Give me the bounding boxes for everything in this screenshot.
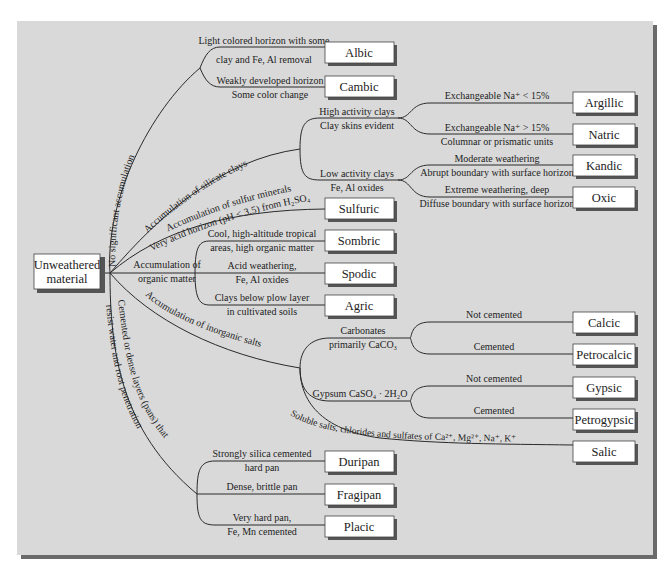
svg-text:Salic: Salic	[592, 445, 617, 459]
label-low-activity-2: Fe, Al oxides	[330, 182, 383, 193]
label-sombric-1: Cool, high-altitude tropical	[208, 228, 317, 239]
horizon-box-gypsic: Gypsic	[573, 377, 638, 401]
svg-text:Calcic: Calcic	[588, 316, 620, 330]
svg-text:Kandic: Kandic	[586, 159, 623, 173]
label-natric-2: Columnar or prismatic units	[441, 136, 554, 147]
svg-text:Fragipan: Fragipan	[337, 488, 382, 502]
soil-horizon-diagram: No significant accumulation Accumulation…	[0, 0, 671, 576]
horizon-box-argillic: Argillic	[573, 92, 638, 116]
svg-text:Argillic: Argillic	[585, 96, 624, 110]
label-carbonates-1: Carbonates	[341, 325, 386, 336]
label-low-activity-1: Low activity clays	[320, 168, 394, 179]
horizon-box-placic: Placic	[325, 516, 397, 540]
label-petrogypsic-1: Cemented	[474, 405, 515, 416]
label-argillic-1: Exchangeable Na⁺ < 15%	[445, 90, 550, 101]
svg-text:Sulfuric: Sulfuric	[339, 202, 380, 216]
root-label-2: material	[47, 272, 88, 286]
root-box-unweathered-material: Unweathered material	[34, 254, 105, 293]
svg-text:Natric: Natric	[588, 128, 620, 142]
branch-no-accumulation: No significant accumulation	[106, 153, 136, 268]
label-kandic-2: Abrupt boundary with surface horizon	[420, 167, 573, 178]
label-sombric-2: areas, high organic matter	[210, 242, 314, 253]
label-oxic-2: Diffuse boundary with surface horizon	[420, 198, 575, 209]
label-carbonates-2: primarily CaCO₃	[329, 339, 397, 350]
svg-text:Agric: Agric	[345, 299, 374, 313]
horizon-box-fragipan: Fragipan	[325, 484, 397, 508]
label-gypsum-1: Gypsum CaSO₄ · 2H₂O	[312, 388, 407, 399]
horizon-box-sombric: Sombric	[325, 230, 397, 254]
svg-text:Petrocalcic: Petrocalcic	[576, 348, 632, 362]
horizon-box-cambic: Cambic	[325, 76, 397, 100]
root-label-1: Unweathered	[34, 258, 101, 272]
svg-text:Duripan: Duripan	[339, 455, 381, 469]
svg-text:Sombric: Sombric	[338, 234, 381, 248]
horizon-box-petrogypsic: Petrogypsic	[573, 409, 638, 433]
label-fragipan-1: Dense, brittle pan	[227, 481, 298, 492]
label-agric-1: Clays below plow layer	[215, 292, 310, 303]
horizon-box-spodic: Spodic	[325, 263, 397, 287]
svg-text:Placic: Placic	[344, 520, 375, 534]
horizon-box-sulfuric: Sulfuric	[325, 198, 397, 222]
svg-text:Petrogypsic: Petrogypsic	[574, 413, 633, 427]
label-oxic-1: Extreme weathering, deep	[445, 184, 550, 195]
label-spodic-2: Fe, Al oxides	[235, 274, 288, 285]
label-agric-2: in cultivated soils	[227, 306, 298, 317]
horizon-box-calcic: Calcic	[573, 312, 638, 336]
label-cambic-1: Weakly developed horizon	[217, 75, 324, 86]
label-duripan-1: Strongly silica cemented	[213, 448, 312, 459]
svg-text:Spodic: Spodic	[342, 267, 377, 281]
svg-text:Gypsic: Gypsic	[586, 381, 622, 395]
label-placic-1: Very hard pan,	[233, 512, 292, 523]
label-duripan-2: hard pan	[245, 462, 280, 473]
label-natric-1: Exchangeable Na⁺ > 15%	[445, 122, 550, 133]
branch-organic-1: Accumulation of	[133, 259, 201, 270]
label-placic-2: Fe, Mn cemented	[227, 526, 297, 537]
horizon-box-natric: Natric	[573, 124, 638, 148]
label-cambic-2: Some color change	[232, 89, 309, 100]
label-albic-1: Light colored horizon with some	[198, 35, 330, 46]
branch-organic-2: organic matter	[138, 273, 197, 284]
label-petrocalcic-1: Cemented	[474, 341, 515, 352]
horizon-box-kandic: Kandic	[573, 155, 638, 179]
svg-text:Cambic: Cambic	[340, 80, 379, 94]
horizon-box-petrocalcic: Petrocalcic	[573, 344, 638, 368]
svg-text:Albic: Albic	[345, 46, 373, 60]
label-albic-2: clay and Fe, Al removal	[216, 54, 312, 65]
label-kandic-1: Moderate weathering	[454, 153, 539, 164]
label-high-activity-1: High activity clays	[319, 106, 395, 117]
label-spodic-1: Acid weathering,	[228, 260, 297, 271]
horizon-box-agric: Agric	[325, 295, 397, 319]
label-calcic-1: Not cemented	[466, 309, 522, 320]
svg-text:Oxic: Oxic	[592, 191, 617, 205]
label-high-activity-2: Clay skins evident	[320, 120, 394, 131]
label-gypsic-1: Not cemented	[466, 373, 522, 384]
horizon-box-albic: Albic	[325, 42, 397, 66]
horizon-box-oxic: Oxic	[573, 187, 638, 211]
horizon-box-salic: Salic	[573, 441, 638, 465]
horizon-box-duripan: Duripan	[325, 451, 397, 475]
